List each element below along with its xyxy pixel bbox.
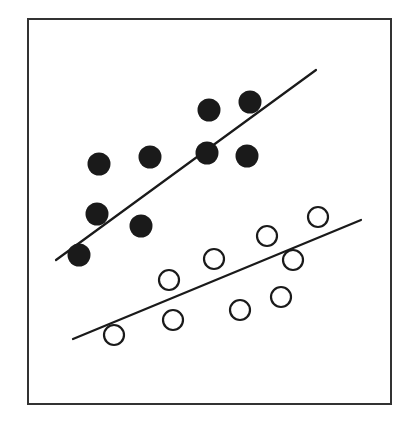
filled-circle-marker [130,215,153,238]
plot-frame [28,19,391,404]
open-circle-marker [271,287,291,307]
series-layer [56,70,361,345]
open-circle-marker [257,226,277,246]
filled-circle-marker [68,244,91,267]
open-circle-marker [163,310,183,330]
filled-circle-marker [239,91,262,114]
scatter-plot [0,0,411,430]
open-circle-marker [204,249,224,269]
open-circle-marker [104,325,124,345]
filled-circle-marker [88,153,111,176]
filled-circle-marker [236,145,259,168]
series-open [73,207,361,345]
filled-circle-marker [139,146,162,169]
open-circle-marker [230,300,250,320]
filled-circle-marker [198,99,221,122]
open-circle-marker [159,270,179,290]
open-circle-marker [283,250,303,270]
filled-circle-marker [86,203,109,226]
filled-circle-marker [196,142,219,165]
fit-line-open [73,220,361,339]
open-circle-marker [308,207,328,227]
